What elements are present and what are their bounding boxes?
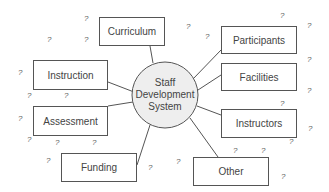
connector-line-participants — [193, 50, 221, 79]
node-curriculum: Curriculum — [99, 17, 165, 46]
question-mark: ? — [205, 33, 209, 41]
question-mark: ? — [92, 139, 96, 147]
question-mark: ? — [27, 92, 31, 100]
question-mark: ? — [84, 36, 88, 44]
question-mark: ? — [186, 23, 190, 31]
node-funding: Funding — [61, 153, 137, 182]
question-mark: ? — [176, 158, 180, 166]
question-mark: ? — [233, 147, 237, 155]
node-facilities: Facilities — [221, 63, 297, 91]
node-label: Assessment — [43, 116, 97, 127]
staff-development-diagram: StaffDevelopmentSystem CurriculumPartici… — [0, 0, 329, 192]
question-mark: ? — [84, 15, 88, 23]
node-participants: Participants — [221, 26, 297, 54]
node-assessment: Assessment — [33, 106, 108, 136]
question-mark: ? — [307, 87, 311, 95]
question-mark: ? — [308, 125, 312, 133]
node-label: Curriculum — [108, 26, 156, 37]
question-mark: ? — [307, 22, 311, 30]
center-label-line: Staff — [125, 77, 205, 89]
node-other: Other — [193, 157, 269, 186]
question-mark: ? — [18, 69, 22, 77]
question-mark: ? — [280, 100, 284, 108]
question-mark: ? — [281, 173, 285, 181]
node-label: Participants — [233, 35, 285, 46]
center-label-line: System — [125, 101, 205, 113]
question-mark: ? — [47, 36, 51, 44]
node-instructors: Instructors — [221, 109, 297, 138]
question-mark: ? — [46, 157, 50, 165]
node-label: Instructors — [236, 118, 283, 129]
connector-line-curriculum — [150, 46, 153, 63]
question-mark: ? — [289, 138, 293, 146]
question-mark: ? — [261, 147, 265, 155]
node-instruction: Instruction — [33, 60, 108, 90]
connector-line-funding — [137, 125, 150, 165]
node-label: Instruction — [47, 70, 93, 81]
node-label: Funding — [81, 162, 117, 173]
question-mark: ? — [148, 164, 152, 172]
center-label: StaffDevelopmentSystem — [125, 77, 205, 113]
node-label: Other — [218, 166, 243, 177]
question-mark: ? — [18, 115, 22, 123]
question-mark: ? — [55, 139, 59, 147]
question-mark: ? — [64, 92, 68, 100]
node-label: Facilities — [240, 72, 279, 83]
connector-line-other — [190, 118, 218, 157]
center-label-line: Development — [125, 89, 205, 101]
question-mark: ? — [280, 12, 284, 20]
question-mark: ? — [307, 56, 311, 64]
question-mark: ? — [27, 136, 31, 144]
